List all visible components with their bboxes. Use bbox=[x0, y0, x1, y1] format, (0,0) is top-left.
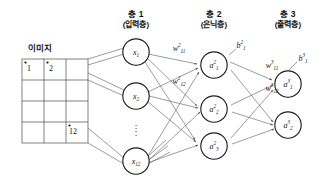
node-sub-a2-2: 2 bbox=[216, 109, 219, 115]
image-grid bbox=[22, 59, 88, 143]
grid-to-input-connections bbox=[88, 48, 124, 164]
node-sub-x1: 1 bbox=[136, 52, 139, 58]
grid-cell-label-12: 12 bbox=[69, 127, 77, 136]
node-label-x2: x2 bbox=[133, 92, 139, 101]
neural-network-diagram: 층 1 (입력층) 층 2 (은닉층) 층 3 (출력층) 이미지 1 2 12… bbox=[0, 0, 324, 185]
layer2-title-main: 층 2 bbox=[206, 9, 221, 19]
node-label-x12: x12 bbox=[132, 157, 141, 166]
image-block-caption: 이미지 bbox=[28, 44, 52, 54]
input-layer-ellipsis: .... bbox=[135, 122, 138, 135]
layer3-title-sub: (출력층) bbox=[258, 20, 318, 29]
node-label-a3-2: a32 bbox=[283, 121, 292, 130]
weight-label-w2-12: w212 bbox=[172, 77, 185, 86]
node-sub-x2: 2 bbox=[136, 96, 139, 102]
node-sub-a2-1: 1 bbox=[216, 65, 219, 71]
bias-label-b2-1: b21 bbox=[236, 41, 245, 50]
weight-sup-w2-11: 2 bbox=[178, 42, 181, 48]
layer2-title-sub: (은닉층) bbox=[184, 20, 244, 29]
hidden-to-output-connections bbox=[230, 62, 274, 144]
node-sup-a2-3: 2 bbox=[213, 140, 216, 146]
node-sup-a2-2: 2 bbox=[213, 103, 216, 109]
layer3-title-main: 층 3 bbox=[280, 9, 295, 19]
input-to-hidden-connections bbox=[145, 54, 200, 162]
node-sup-a3-1: 3 bbox=[287, 78, 290, 84]
grid-cell-label-1: 1 bbox=[27, 64, 31, 73]
weight-sub-w3-11: 11 bbox=[274, 65, 279, 71]
bias-connectors bbox=[229, 49, 297, 70]
layer1-title-main: 층 1 bbox=[128, 9, 143, 19]
bias-label-b3-1: b31 bbox=[298, 54, 307, 63]
node-sub-a3-2: 2 bbox=[290, 125, 293, 131]
layer1-node-circles bbox=[123, 39, 149, 174]
weight-label-w3-11: w311 bbox=[266, 61, 279, 70]
layer2-title: 층 2 (은닉층) bbox=[184, 10, 244, 29]
node-label-a3-1: a31 bbox=[283, 80, 292, 89]
node-sub-x12: 12 bbox=[135, 161, 140, 167]
layer3-title: 층 3 (출력층) bbox=[258, 10, 318, 29]
bias-sup-b2-1: 2 bbox=[240, 39, 243, 45]
node-sub-a2-3: 3 bbox=[216, 146, 219, 152]
bias-sub-b3-1: 1 bbox=[305, 58, 308, 64]
bias-sup-b3-1: 3 bbox=[302, 52, 305, 58]
weight-sub-w2-12: 12 bbox=[180, 81, 185, 87]
node-label-x1: x1 bbox=[133, 48, 139, 57]
weight-sub-w2-11: 11 bbox=[181, 48, 186, 54]
node-sub-a3-1: 1 bbox=[290, 84, 293, 90]
grid-cell-label-2: 2 bbox=[49, 64, 53, 73]
node-label-a2-3: a23 bbox=[209, 142, 218, 151]
weight-sup-w3-12: 3 bbox=[271, 82, 274, 88]
bias-sub-b2-1: 1 bbox=[243, 45, 246, 51]
layer1-title: 층 1 (입력층) bbox=[106, 10, 166, 29]
node-label-a2-1: a21 bbox=[209, 61, 218, 70]
node-label-a2-2: a22 bbox=[209, 105, 218, 114]
weight-sub-w3-12: 12 bbox=[273, 88, 278, 94]
weight-sup-w2-12: 2 bbox=[178, 75, 181, 81]
weight-label-w3-12: w312 bbox=[265, 84, 278, 93]
weight-label-w2-11: w211 bbox=[173, 44, 186, 53]
layer1-title-sub: (입력층) bbox=[106, 20, 166, 29]
weight-sup-w3-11: 3 bbox=[271, 59, 274, 65]
node-sup-a3-2: 3 bbox=[287, 119, 290, 125]
node-sup-a2-1: 2 bbox=[213, 59, 216, 65]
cell-marker-dots bbox=[24, 61, 70, 126]
